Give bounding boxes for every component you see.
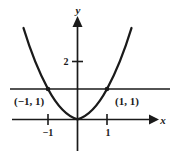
math-figure: y x 2 −1 1 (−1, 1) (1, 1) [0, 0, 173, 159]
point-label-left: (−1, 1) [14, 95, 44, 108]
x-axis-label: x [159, 114, 166, 126]
x-axis-arrowhead-icon [149, 115, 159, 125]
graph-canvas: y x 2 −1 1 (−1, 1) (1, 1) [0, 0, 173, 159]
x-tick-label-1: 1 [106, 127, 111, 138]
y-tick-label-2: 2 [64, 56, 69, 67]
x-tick-label-minus-1: −1 [43, 127, 54, 138]
y-axis-label: y [74, 4, 81, 16]
intersection-point-right [105, 87, 110, 92]
point-label-right: (1, 1) [115, 95, 139, 108]
y-axis-arrowhead-icon [73, 16, 83, 27]
intersection-point-left [46, 87, 51, 92]
